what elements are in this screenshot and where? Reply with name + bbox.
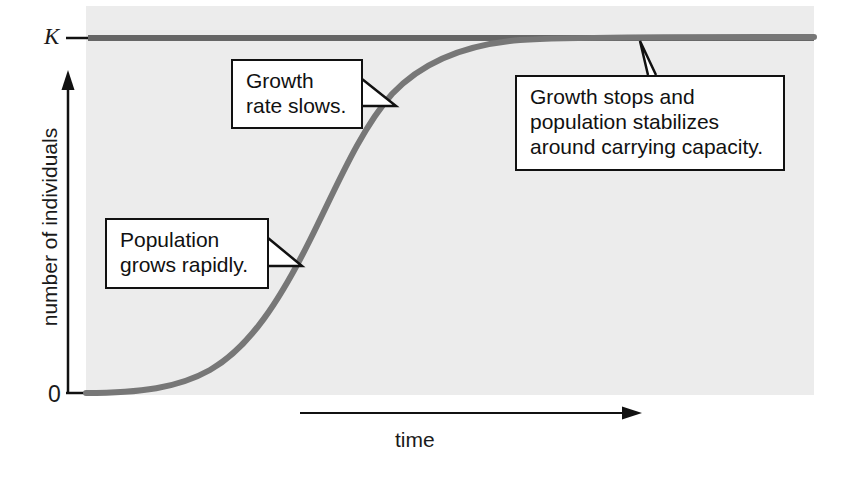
callout-growth-stops-stabilizes: Growth stops and population stabilizes a… [515, 75, 785, 171]
y-axis-arrow [62, 70, 75, 394]
x-axis-title: time [395, 428, 435, 452]
callout-population-grows-rapidly: Population grows rapidly. [105, 218, 269, 289]
x-axis-arrow [300, 407, 642, 420]
y-axis-tick-label-zero: 0 [48, 381, 61, 408]
callout-growth-rate-slows: Growth rate slows. [231, 59, 363, 129]
plot-background [86, 6, 814, 395]
logistic-growth-figure: K 0 number of individuals time Populatio… [0, 0, 847, 477]
y-axis-title: number of individuals [38, 117, 62, 337]
y-axis-tick-label-k: K [44, 24, 59, 50]
